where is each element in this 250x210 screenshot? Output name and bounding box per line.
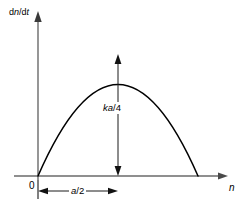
- x-axis-label: n: [229, 183, 235, 193]
- figure-container: dn/dt n 0 ka/4 a/2: [0, 0, 250, 210]
- peak-height-down-arrowhead: [115, 166, 122, 176]
- half-width-right-arrowhead: [108, 188, 118, 194]
- peak-height-label-var: ka: [103, 102, 113, 113]
- peak-height-label-rest: /4: [113, 102, 121, 113]
- y-axis-label: dn/dt: [9, 8, 29, 17]
- peak-height-up-arrowhead: [115, 54, 122, 64]
- plot-canvas: [0, 0, 250, 210]
- origin-label: 0: [29, 181, 35, 191]
- y-axis-label-var-n: n: [14, 7, 19, 17]
- half-width-label-rest: /2: [76, 185, 84, 196]
- y-axis-label-var-t: t: [27, 7, 30, 17]
- peak-height-label: ka/4: [101, 102, 123, 114]
- half-width-label: a/2: [69, 186, 86, 196]
- x-axis-arrowhead: [218, 173, 228, 180]
- y-axis-arrowhead: [34, 11, 41, 22]
- half-width-left-arrowhead: [38, 188, 48, 194]
